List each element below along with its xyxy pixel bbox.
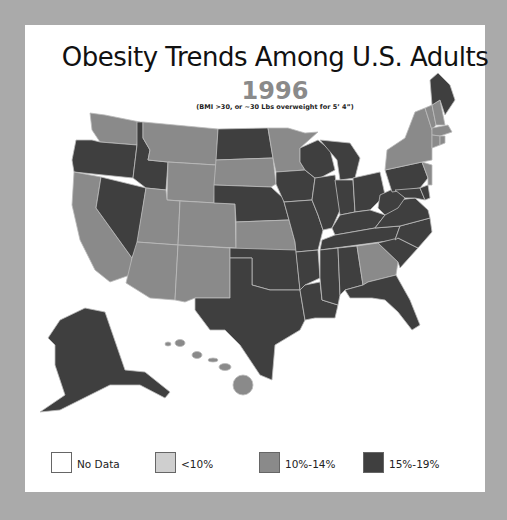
legend: No Data <10% 10%-14% 15%-19% bbox=[25, 452, 485, 482]
state-MT bbox=[143, 122, 218, 165]
state-OR bbox=[72, 140, 137, 178]
us-map bbox=[25, 25, 485, 445]
state-WY bbox=[167, 162, 216, 203]
state-CT bbox=[432, 135, 440, 148]
map-panel: Obesity Trends Among U.S. Adults 1996 (B… bbox=[25, 25, 485, 492]
legend-swatch bbox=[155, 452, 176, 473]
state-NY bbox=[385, 108, 432, 170]
legend-label: 10%-14% bbox=[285, 458, 335, 470]
legend-swatch bbox=[259, 452, 280, 473]
state-CO bbox=[178, 201, 236, 248]
legend-swatch bbox=[363, 452, 384, 473]
state-WA bbox=[90, 113, 140, 145]
state-IA bbox=[276, 170, 315, 202]
state-MS bbox=[320, 248, 340, 305]
legend-swatch bbox=[51, 452, 72, 473]
state-AK bbox=[40, 308, 170, 412]
state-ND bbox=[216, 128, 273, 160]
state-RI bbox=[440, 136, 445, 145]
state-NM bbox=[175, 245, 230, 302]
legend-label: 15%-19% bbox=[389, 458, 439, 470]
state-HI bbox=[165, 340, 253, 396]
legend-label: No Data bbox=[77, 458, 120, 470]
states-group bbox=[40, 73, 455, 412]
state-SD bbox=[214, 158, 276, 187]
state-KS bbox=[236, 220, 296, 252]
legend-label: <10% bbox=[181, 458, 213, 470]
